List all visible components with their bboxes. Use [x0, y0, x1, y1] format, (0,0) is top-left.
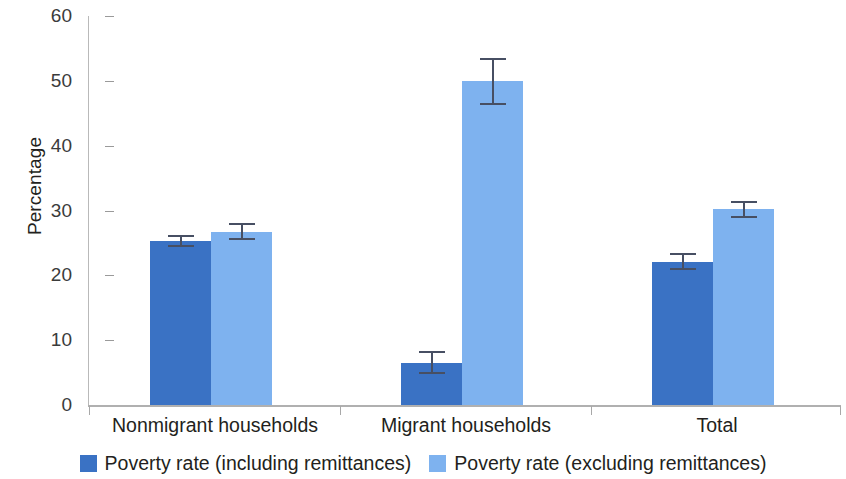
error-bar-cap-top: [480, 58, 506, 60]
legend-swatch: [80, 455, 97, 472]
y-tick-label: 30: [26, 200, 72, 222]
bar: [401, 363, 462, 405]
bar: [462, 81, 523, 405]
y-axis-ticks: 0102030405060: [26, 0, 72, 479]
bar: [652, 262, 713, 405]
legend-item: Poverty rate (including remittances): [80, 452, 412, 475]
bar-chart: Percentage 0102030405060 Nonmigrant hous…: [0, 0, 846, 479]
bar: [713, 209, 774, 405]
bar: [150, 241, 211, 405]
legend-label: Poverty rate (including remittances): [105, 452, 412, 475]
error-bar-cap-top: [731, 201, 757, 203]
chart-legend: Poverty rate (including remittances)Pove…: [0, 452, 846, 475]
y-tick-label: 50: [26, 70, 72, 92]
error-bar-cap-top: [229, 223, 255, 225]
x-axis-line: [88, 405, 841, 407]
y-tick-label: 20: [26, 264, 72, 286]
y-tick-label: 40: [26, 135, 72, 157]
bar: [211, 232, 272, 405]
y-tick-label: 0: [26, 394, 72, 416]
legend-item: Poverty rate (excluding remittances): [429, 452, 766, 475]
legend-swatch: [429, 455, 446, 472]
y-tick-label: 60: [26, 5, 72, 27]
x-axis-category-label: Total: [557, 414, 846, 437]
error-bar-cap-top: [670, 253, 696, 255]
legend-label: Poverty rate (excluding remittances): [454, 452, 766, 475]
plot-area: [89, 16, 841, 405]
error-bar-cap-top: [419, 351, 445, 353]
error-bar-cap-top: [168, 235, 194, 237]
y-tick-label: 10: [26, 329, 72, 351]
